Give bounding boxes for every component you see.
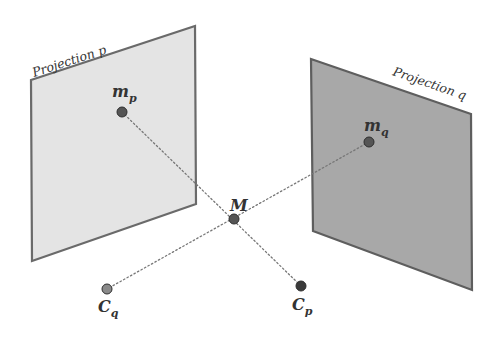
projection-planes — [31, 26, 472, 290]
stereo-projection-diagram: Projection pProjection qmpmqMCqCp — [0, 0, 498, 342]
point-label-M: M — [229, 196, 249, 215]
point-label-C_q: Cq — [98, 297, 119, 320]
point-C_p-icon — [296, 281, 306, 291]
point-C_q-icon — [102, 284, 112, 294]
point-M-icon — [229, 214, 239, 224]
point-m_p-icon — [117, 107, 127, 117]
point-m_q-icon — [364, 137, 374, 147]
point-label-C_p: Cp — [292, 295, 313, 318]
